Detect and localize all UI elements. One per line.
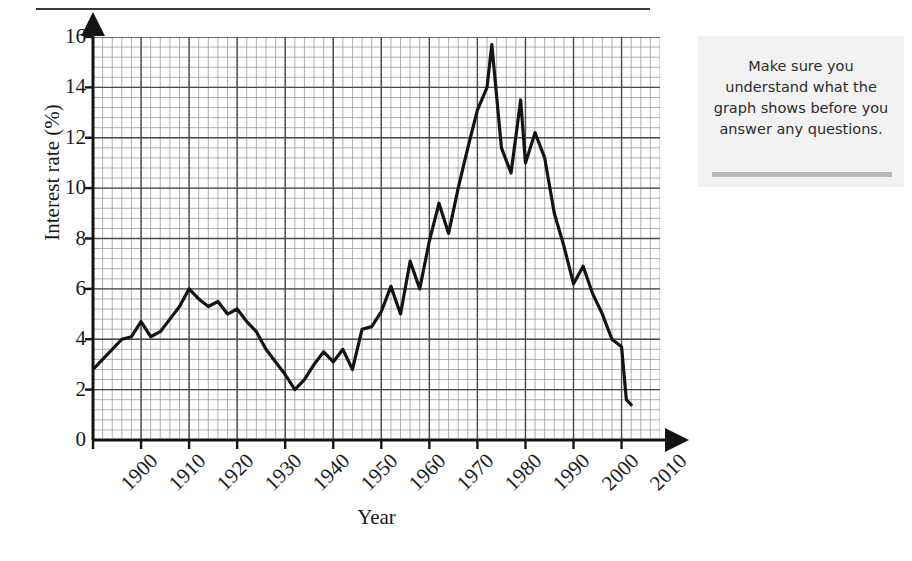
x-tick-label: 2010 [646, 450, 691, 495]
x-tick-label: 1930 [261, 450, 306, 495]
side-note-text: Make sure you understand what the graph … [706, 56, 896, 140]
chart-figure: Interest rate (%) Year 0246810121416 190… [0, 0, 690, 561]
x-tick-label: 1980 [502, 450, 547, 495]
x-tick-labels: 1900191019201930194019501960197019801990… [0, 0, 690, 561]
side-note-underbar [712, 172, 892, 177]
x-tick-label: 1960 [406, 450, 451, 495]
x-tick-label: 1910 [165, 450, 210, 495]
x-tick-label: 2000 [598, 450, 643, 495]
x-tick-label: 1900 [117, 450, 162, 495]
x-tick-label: 1920 [213, 450, 258, 495]
x-tick-label: 1990 [550, 450, 595, 495]
x-tick-label: 1970 [454, 450, 499, 495]
x-tick-label: 1950 [358, 450, 403, 495]
x-tick-label: 1940 [310, 450, 355, 495]
side-note-box: Make sure you understand what the graph … [698, 36, 904, 187]
